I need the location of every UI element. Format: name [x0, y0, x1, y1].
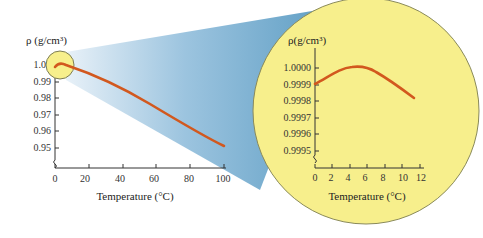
inset-x-axis-title: Temperature (°C)	[328, 190, 406, 203]
main-x-tick-label: 20	[80, 173, 90, 184]
main-y-tick-label: 0.99	[34, 76, 52, 87]
inset-x-tick-label: 6	[363, 172, 368, 183]
main-x-tick-label: 60	[149, 173, 159, 184]
main-x-ticks: 0 20 40 60 80 100	[53, 164, 231, 184]
inset-y-tick-label: 0.9995	[284, 145, 312, 156]
inset-x-tick-label: 12	[416, 172, 426, 183]
inset-y-tick-label: 1.0000	[284, 62, 312, 73]
inset-x-tick-label: 4	[346, 172, 351, 183]
inset-y-tick-label: 0.9998	[284, 95, 312, 106]
main-x-tick-label: 100	[216, 173, 231, 184]
main-y-tick-label: 0.95	[34, 142, 52, 153]
inset-y-tick-label: 0.9997	[284, 112, 312, 123]
inset-y-tick-label: 0.9996	[284, 128, 312, 139]
main-y-axis-title: ρ (g/cm³)	[26, 34, 67, 47]
main-x-tick-label: 80	[184, 173, 194, 184]
main-y-tick-label: 0.96	[34, 125, 52, 136]
inset-x-tick-label: 10	[398, 172, 408, 183]
main-x-tick-label: 0	[53, 173, 58, 184]
inset-x-tick-label: 0	[313, 172, 318, 183]
inset-x-tick-label: 8	[381, 172, 386, 183]
inset-y-tick-label: 0.9999	[284, 79, 312, 90]
inset-x-tick-label: 2	[329, 172, 334, 183]
inset-y-axis-title: ρ(g/cm³)	[288, 34, 326, 47]
inset-chart: 1.0000 0.9999 0.9998 0.9997 0.9996 0.999…	[253, 0, 479, 224]
main-x-tick-label: 40	[115, 173, 125, 184]
main-y-tick-label: 0.97	[34, 109, 52, 120]
main-y-tick-label: 0.98	[34, 92, 52, 103]
water-density-figure: 1.00 0.99 0.98 0.97 0.96 0.95 0 20 40 60…	[0, 0, 483, 238]
main-x-axis-title: Temperature (°C)	[96, 190, 174, 203]
